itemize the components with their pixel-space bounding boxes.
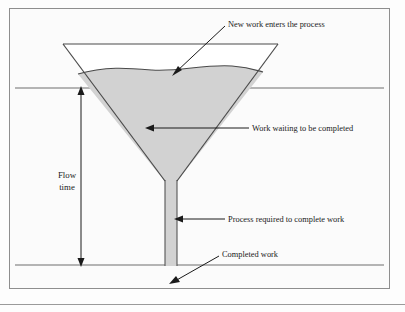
completed-work-leader-line: [175, 256, 219, 281]
bottom-rule: [0, 304, 405, 305]
flow-time-arrowhead-top: [78, 86, 85, 95]
label-work-waiting: Work waiting to be completed: [252, 124, 354, 133]
funnel-stem-fill: [165, 178, 177, 266]
label-completed-work: Completed work: [222, 250, 279, 259]
completed-work-arrowhead: [169, 276, 180, 284]
flow-time-arrowhead-bottom: [78, 258, 85, 267]
funnel-diagram: New work enters the process Work waiting…: [0, 0, 405, 312]
figure-root: New work enters the process Work waiting…: [0, 0, 405, 312]
label-process-required: Process required to complete work: [228, 215, 345, 224]
funnel-liquid-fill: [78, 66, 263, 189]
label-flow-time-line1: Flow: [58, 170, 77, 180]
label-new-work: New work enters the process: [228, 20, 325, 29]
funnel-top-rim: [63, 44, 278, 54]
label-flow-time-line2: time: [59, 182, 75, 192]
